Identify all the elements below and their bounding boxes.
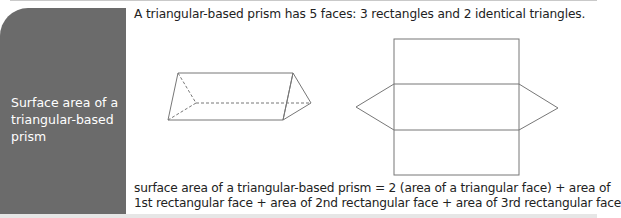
bottom-divider: [0, 214, 597, 218]
prism-net-icon: [356, 39, 558, 175]
prism-3d-icon: [168, 73, 311, 120]
